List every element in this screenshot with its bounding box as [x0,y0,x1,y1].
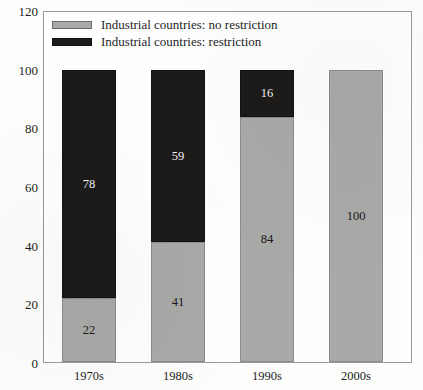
bar-group-1990s[interactable]: 16 84 [240,70,294,362]
bar-value-label: 16 [261,87,274,100]
x-tick-label-1970s: 1970s [44,369,134,384]
bar-segment-no-restriction-2000s[interactable]: 100 [329,70,383,362]
bar-value-label: 22 [83,324,96,337]
bar-group-2000s[interactable]: 100 [329,70,383,362]
bar-group-1970s[interactable]: 78 22 [62,70,116,362]
y-tick-label-100: 100 [4,63,38,76]
y-tick-label-0: 0 [4,357,38,370]
bar-segment-no-restriction-1990s[interactable]: 84 [240,117,294,362]
chart-legend: Industrial countries: no restriction Ind… [52,17,278,51]
bar-value-label: 41 [172,296,185,309]
bar-segment-restriction-1970s[interactable]: 78 [62,70,116,298]
x-tick-label-2000s: 2000s [311,369,401,384]
bar-segment-restriction-1990s[interactable]: 16 [240,70,294,117]
chart-figure: 120 100 80 60 40 20 0 78 22 59 [0,0,423,390]
bar-group-1980s[interactable]: 59 41 [151,70,205,362]
bar-segment-no-restriction-1980s[interactable]: 41 [151,242,205,362]
y-tick-label-120: 120 [4,5,38,18]
bar-value-label: 84 [261,233,274,246]
legend-item-no-restriction[interactable]: Industrial countries: no restriction [52,17,278,32]
x-tick-label-1980s: 1980s [133,369,223,384]
plot-area: 78 22 59 41 16 84 [44,12,411,362]
bar-value-label: 100 [347,210,366,223]
legend-item-label: Industrial countries: restriction [101,35,261,48]
bar-value-label: 78 [83,178,96,191]
y-tick-label-60: 60 [4,181,38,194]
y-tick-label-40: 40 [4,239,38,252]
y-tick-label-80: 80 [4,122,38,135]
legend-swatch-icon [52,21,92,29]
y-tick-label-20: 20 [4,298,38,311]
bar-segment-no-restriction-1970s[interactable]: 22 [62,298,116,362]
legend-item-label: Industrial countries: no restriction [101,18,278,31]
legend-item-restriction[interactable]: Industrial countries: restriction [52,34,278,49]
bar-segment-restriction-1980s[interactable]: 59 [151,70,205,242]
legend-swatch-icon [52,38,92,46]
x-tick-label-1990s: 1990s [222,369,312,384]
bar-value-label: 59 [172,150,185,163]
